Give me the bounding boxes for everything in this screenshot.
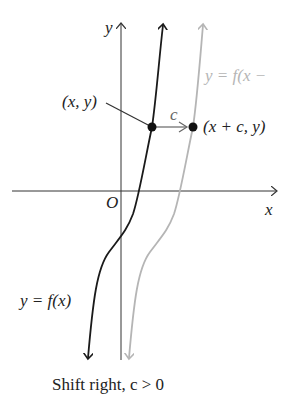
x-axis-label: x [264,200,273,219]
origin-label: O [106,193,118,212]
shift-amount-label: c [170,105,178,124]
shifted-curve-label: y = f(x − [203,66,266,85]
caption: Shift right, c > 0 [52,375,164,394]
y-axis-label: y [103,18,113,37]
point-shifted-label: (x + c, y) [203,117,266,136]
point-original [148,123,157,132]
original-curve-label: y = f(x) [18,291,71,310]
point-shifted [189,123,198,132]
graph-canvas: y x O (x, y) (x + c, y) c y = f(x − y = … [0,0,293,397]
point-leader-line [106,103,150,126]
point-original-label: (x, y) [62,92,97,111]
